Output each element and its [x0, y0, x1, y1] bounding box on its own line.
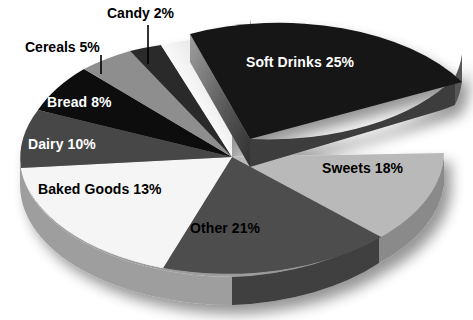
- label-soft-drinks: Soft Drinks 25%: [246, 55, 354, 69]
- label-sweets: Sweets 18%: [322, 161, 403, 175]
- label-other: Other 21%: [190, 221, 260, 235]
- label-bread: Bread 8%: [47, 95, 112, 109]
- label-dairy: Dairy 10%: [28, 137, 96, 151]
- label-baked-goods: Baked Goods 13%: [38, 182, 162, 196]
- label-candy: Candy 2%: [107, 6, 174, 20]
- label-cereals: Cereals 5%: [25, 40, 100, 54]
- pie-chart-figure: Candy 2% Cereals 5% Bread 8% Dairy 10% B…: [0, 0, 473, 320]
